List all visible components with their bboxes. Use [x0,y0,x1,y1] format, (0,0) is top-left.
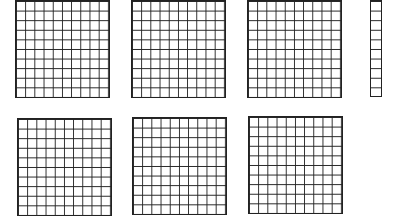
ten-rod [370,0,382,97]
hundred-block-3 [247,0,342,98]
hundred-block-6 [248,116,343,214]
hundred-block-5 [132,117,227,215]
hundred-block-1 [15,0,110,98]
hundred-block-4 [17,118,112,216]
hundred-block-2 [131,0,226,98]
